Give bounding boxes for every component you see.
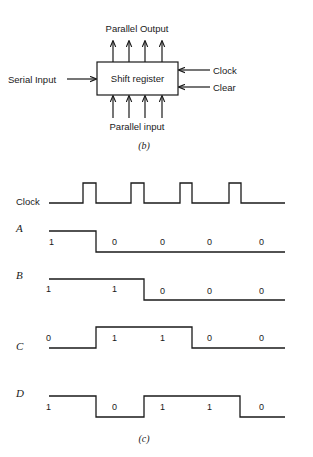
bit-value: 0	[160, 286, 165, 296]
timing-diagram: Clock A 1 0 0 0 0 B 1 1 0 0 0 C 0 1 1 0	[15, 183, 285, 445]
clock-input-label: Clock	[213, 65, 237, 76]
bit-value: 1	[112, 284, 117, 294]
bit-value: 0	[46, 333, 51, 343]
caption-c: (c)	[138, 433, 150, 445]
bit-value: 0	[259, 237, 264, 247]
bit-value: 0	[207, 237, 212, 247]
parallel-output-arrows	[113, 41, 162, 62]
bit-value: 0	[112, 237, 117, 247]
parallel-input-label: Parallel input	[110, 121, 165, 132]
shift-register-figure: Parallel Output Shift register Serial In…	[0, 0, 313, 457]
bit-value: 0	[207, 333, 212, 343]
bit-value: 0	[259, 402, 264, 412]
signal-label-b: B	[16, 269, 23, 281]
clock-waveform	[49, 183, 285, 203]
signal-label-a: A	[15, 222, 23, 234]
shift-register-label: Shift register	[111, 73, 164, 84]
signal-label-d: D	[15, 387, 24, 399]
a-waveform	[49, 231, 285, 252]
bit-value: 0	[207, 286, 212, 296]
signal-label-c: C	[16, 340, 24, 352]
bit-value: 0	[112, 402, 117, 412]
block-diagram: Parallel Output Shift register Serial In…	[8, 23, 237, 152]
c-waveform	[49, 327, 285, 348]
b-bit-values: 1 1 0 0 0	[46, 284, 264, 296]
signal-label-clock: Clock	[16, 196, 40, 207]
a-bit-values: 1 0 0 0 0	[49, 237, 264, 247]
bit-value: 1	[46, 284, 51, 294]
caption-b: (b)	[138, 140, 150, 152]
bit-value: 0	[259, 333, 264, 343]
bit-value: 0	[259, 286, 264, 296]
bit-value: 1	[49, 237, 54, 247]
bit-value: 1	[160, 333, 165, 343]
parallel-output-label: Parallel Output	[106, 23, 169, 34]
bit-value: 1	[46, 402, 51, 412]
d-waveform	[49, 396, 285, 417]
d-bit-values: 1 0 1 1 0	[46, 402, 264, 412]
bit-value: 1	[207, 402, 212, 412]
b-waveform	[49, 279, 285, 300]
serial-input-label: Serial Input	[8, 74, 56, 85]
parallel-input-arrows	[113, 96, 162, 118]
bit-value: 0	[160, 237, 165, 247]
bit-value: 1	[112, 333, 117, 343]
bit-value: 1	[160, 402, 165, 412]
clear-input-label: Clear	[213, 82, 236, 93]
c-bit-values: 0 1 1 0 0	[46, 333, 264, 343]
